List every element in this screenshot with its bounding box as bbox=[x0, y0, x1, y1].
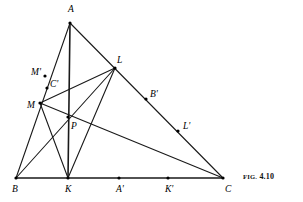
vertex-K-prime bbox=[166, 176, 169, 179]
point-label-L-prime: L' bbox=[183, 122, 190, 132]
point-label-K: K bbox=[65, 185, 71, 195]
figure-container: A B C K A' K' L B' L' M M' C' P FIG. 4.1… bbox=[0, 0, 303, 202]
vertex-P bbox=[66, 115, 69, 118]
point-label-A: A bbox=[68, 5, 74, 15]
figure-caption: FIG. 4.10 bbox=[243, 172, 274, 181]
segments-group bbox=[16, 23, 223, 178]
point-label-P: P bbox=[71, 122, 77, 132]
vertex-M-prime bbox=[43, 74, 46, 77]
point-label-A-prime: A' bbox=[116, 185, 124, 195]
vertex-B-prime bbox=[144, 97, 147, 100]
point-label-C: C bbox=[225, 185, 231, 195]
segment-A-B bbox=[16, 23, 70, 178]
vertex-B bbox=[14, 176, 17, 179]
segment-B-L bbox=[16, 68, 115, 178]
point-label-C-prime: C' bbox=[50, 80, 58, 90]
vertex-L bbox=[113, 66, 116, 69]
point-label-M: M bbox=[27, 101, 35, 111]
vertex-M bbox=[38, 101, 41, 104]
vertex-C-prime bbox=[45, 86, 48, 89]
segment-A-K bbox=[68, 23, 70, 178]
point-label-M-prime: M' bbox=[31, 68, 41, 78]
vertex-L-prime bbox=[176, 129, 179, 132]
point-label-B-prime: B' bbox=[150, 90, 158, 100]
point-label-K-prime: K' bbox=[165, 185, 173, 195]
figure-caption-prefix: FIG. bbox=[243, 173, 257, 180]
vertex-A bbox=[68, 21, 71, 24]
figure-caption-number: 4.10 bbox=[259, 172, 274, 181]
vertex-A-prime bbox=[117, 176, 120, 179]
segment-M-K bbox=[40, 103, 68, 178]
point-label-L: L bbox=[117, 56, 122, 66]
vertex-K bbox=[66, 176, 69, 179]
point-label-B: B bbox=[12, 185, 18, 195]
vertex-C bbox=[221, 176, 224, 179]
